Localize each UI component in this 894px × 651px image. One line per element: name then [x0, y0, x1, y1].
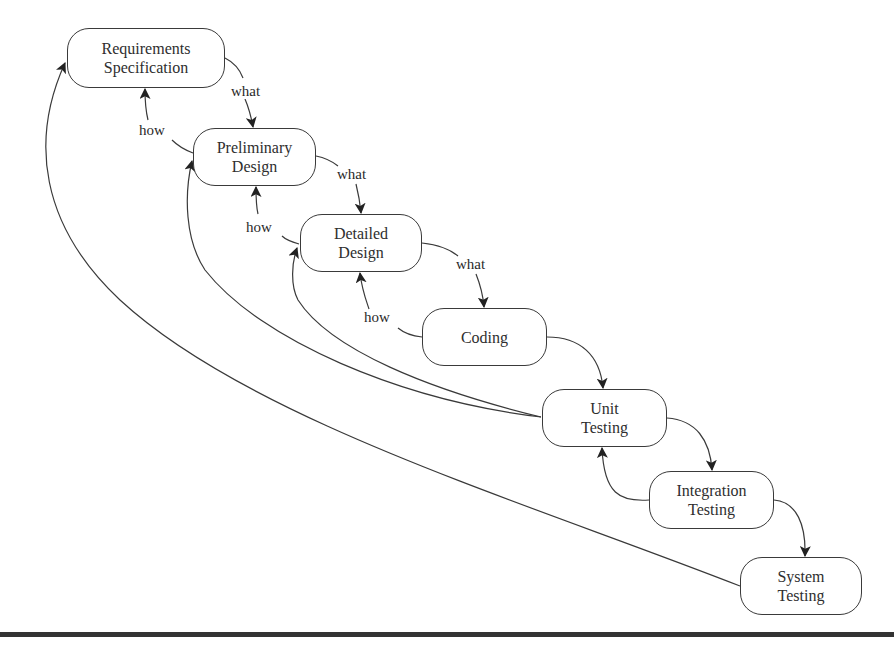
- edge-how-prelim-to-req: [145, 89, 193, 153]
- edge-label-how: how: [245, 220, 273, 235]
- edge-coding-to-unit: [547, 337, 603, 388]
- v-model-diagram: Requirements Specification Preliminary D…: [0, 0, 894, 651]
- node-system-testing[interactable]: System Testing: [740, 557, 862, 615]
- edge-unit-to-preliminary: [187, 161, 541, 417]
- node-preliminary-design[interactable]: Preliminary Design: [193, 128, 316, 186]
- edge-what-detailed-to-coding: [422, 243, 484, 307]
- node-requirements-specification[interactable]: Requirements Specification: [67, 28, 225, 88]
- node-unit-testing[interactable]: Unit Testing: [542, 389, 667, 447]
- edge-integration-to-unit: [602, 448, 649, 500]
- edge-integration-to-system: [774, 500, 805, 556]
- edge-what-prelim-to-detailed: [316, 156, 361, 213]
- edge-label-what: what: [336, 167, 367, 182]
- edge-label-what: what: [455, 257, 486, 272]
- horizontal-rule-divider: [0, 632, 894, 637]
- edge-label-how: how: [363, 310, 391, 325]
- edge-system-to-requirements: [46, 63, 740, 586]
- node-detailed-design[interactable]: Detailed Design: [300, 214, 422, 272]
- node-integration-testing[interactable]: Integration Testing: [649, 471, 774, 529]
- edge-label-what: what: [230, 84, 261, 99]
- node-coding[interactable]: Coding: [422, 308, 547, 366]
- edge-label-how: how: [138, 123, 166, 138]
- edge-how-detailed-to-prelim: [256, 187, 299, 244]
- edge-unit-to-integration: [667, 418, 712, 470]
- edge-how-coding-to-detailed: [360, 273, 422, 337]
